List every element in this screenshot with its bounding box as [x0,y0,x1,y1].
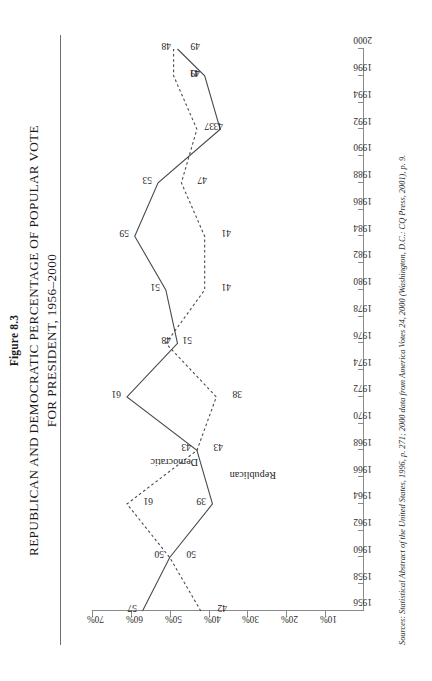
y-tick-label: 50% [165,614,182,624]
chart-plot-area: 1956195819601962196419661968197019721974… [92,49,364,611]
democratic-line [127,49,216,611]
data-point-label: 50 [186,549,196,560]
data-point-label: 48 [162,41,172,52]
y-tick-label: 40% [204,614,221,624]
y-tick-label: 60% [126,614,143,624]
data-point-label: 49 [190,68,200,79]
data-point-label: 43 [213,121,223,132]
source-note: Sources: Statistical Abstract of the Uni… [398,25,409,645]
data-point-label: 57 [127,603,137,614]
data-point-label: 43 [181,442,191,453]
data-point-label: 41 [221,282,231,293]
data-point-label: 51 [150,282,160,293]
data-point-label: 51 [182,335,192,346]
figure-heading: Figure 8.3 REPUBLICAN AND DEMOCRATIC PER… [8,0,61,681]
data-point-label: 43 [213,442,223,453]
data-point-label: 61 [143,496,153,507]
republican-line [127,49,220,611]
rotated-figure-canvas: Figure 8.3 REPUBLICAN AND DEMOCRATIC PER… [0,0,432,681]
data-point-label: 47 [198,175,208,186]
title-divider-rule [60,35,61,645]
figure-number: Figure 8.3 [8,0,20,681]
x-tick-label: 2000 [353,35,372,45]
data-point-label: 38 [233,389,243,400]
data-point-label: 61 [111,389,121,400]
figure-title-line-2: FOR PRESIDENT, 1956–2000 [43,0,61,681]
figure-title-line-1: REPUBLICAN AND DEMOCRATIC PERCENTAGE OF … [25,0,43,681]
y-tick-label: 20% [281,614,298,624]
data-point-label: 50 [154,549,164,560]
data-point-label: 48 [162,335,172,346]
series-lines [92,49,364,611]
data-point-label: 59 [119,228,129,239]
data-point-label: 53 [142,175,152,186]
data-point-label: 41 [221,228,231,239]
data-point-label: 42 [217,603,227,614]
y-tick-label: 70% [87,614,104,624]
data-point-label: 39 [197,496,207,507]
y-tick-label: 10% [320,614,337,624]
y-tick-label: 30% [242,614,259,624]
figure-page: Figure 8.3 REPUBLICAN AND DEMOCRATIC PER… [0,0,432,681]
series-label-republican: Republican [230,470,276,481]
data-point-label: 49 [190,41,200,52]
series-label-democratic: Democratic [151,457,199,468]
